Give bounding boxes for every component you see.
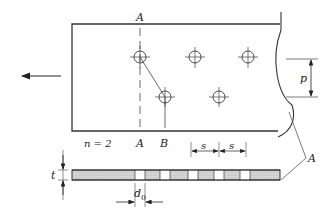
label-section-a-bottom: A (135, 137, 144, 150)
label-bolt-rows: n = 2 (84, 138, 112, 149)
bolt-hole-icon (209, 87, 229, 107)
label-hole-diameter: d0 (134, 187, 146, 202)
label-thickness: t (51, 169, 56, 182)
diagram-canvas: A A B p n = 2 s s t d0 A (0, 0, 327, 219)
label-spacing-1: s (201, 140, 206, 151)
plate-cross-section (72, 170, 280, 180)
label-section-b: B (159, 137, 168, 150)
thickness-dimension (58, 150, 68, 200)
label-pitch: p (300, 72, 307, 85)
label-section-a-top: A (135, 11, 144, 24)
callout-leader (281, 112, 306, 180)
label-callout-a: A (307, 152, 316, 165)
bolt-hole-icon (238, 47, 258, 68)
bolt-hole-icon (185, 47, 205, 68)
label-spacing-2: s (229, 140, 234, 151)
bolt-holes (130, 46, 258, 107)
plate-plan-view (72, 12, 294, 137)
spacing-dimension (191, 142, 246, 157)
bolt-hole-icon (155, 87, 175, 107)
bolt-hole-icon (130, 46, 150, 68)
